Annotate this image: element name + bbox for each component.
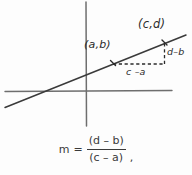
formula-trailing-comma: , — [130, 151, 134, 165]
y-axis — [86, 2, 87, 126]
slope-formula: m = (d – b) (c – a) , — [0, 134, 192, 165]
x-axis — [5, 91, 172, 92]
formula-equals-sign: = — [73, 143, 82, 156]
formula-numerator: (d – b) — [87, 134, 126, 148]
formula-lhs: m — [59, 143, 70, 156]
slope-diagram-figure: (a,b) (c,d) d–b c –a m = (d – b) (c – a)… — [0, 0, 192, 175]
rise-label: d–b — [167, 46, 184, 57]
run-label: c –a — [126, 66, 146, 77]
formula-denominator: (c – a) — [87, 151, 125, 165]
formula-fraction: (d – b) (c – a) — [87, 134, 126, 165]
point-ab-label: (a,b) — [84, 38, 111, 51]
fraction-bar — [87, 149, 126, 150]
point-cd-label: (c,d) — [138, 17, 165, 31]
